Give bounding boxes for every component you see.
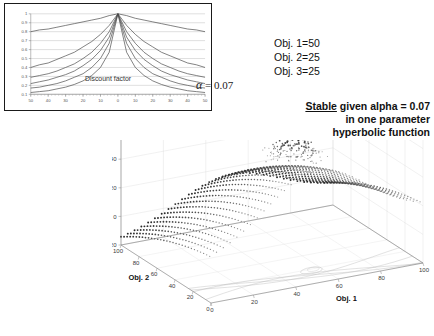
svg-text:40: 40 [185, 98, 190, 103]
objective-weights-block: Obj. 1=50 Obj. 2=25 Obj. 3=25 [274, 36, 320, 78]
svg-text:80: 80 [133, 260, 140, 266]
svg-text:10: 10 [133, 98, 138, 103]
utility-surface-3d-svg: 020406080100100806040200806040200-20 Obj… [112, 140, 434, 336]
svg-text:100: 100 [113, 248, 124, 254]
stable-annotation-line3: hyperbolic function [244, 126, 430, 139]
svg-text:10: 10 [98, 98, 103, 103]
stable-annotation-line2: in one parameter [244, 113, 430, 126]
svg-text:0.7: 0.7 [22, 38, 28, 43]
svg-text:60: 60 [151, 271, 158, 277]
slide-canvas: 0.10.20.30.40.50.60.70.80.91 50403020100… [0, 0, 434, 336]
stable-annotation-line1: Stable given alpha = 0.07 [244, 100, 430, 113]
svg-text:40: 40 [112, 156, 117, 162]
svg-text:20: 20 [150, 98, 155, 103]
surface-plot-walls [121, 140, 423, 263]
surface-plot-floor-grid [121, 205, 423, 303]
alpha-equation: = 0.07 [205, 79, 233, 91]
svg-text:0.2: 0.2 [22, 83, 28, 88]
svg-text:50: 50 [28, 98, 33, 103]
svg-text:0.5: 0.5 [22, 56, 28, 61]
svg-text:100: 100 [419, 267, 430, 273]
alpha-symbol: α [196, 78, 202, 92]
svg-text:0: 0 [210, 307, 214, 313]
svg-text:0: 0 [113, 214, 117, 220]
axis-title-obj1: Obj. 1 [336, 294, 357, 303]
svg-text:80: 80 [378, 275, 385, 281]
alpha-annotation: α = 0.07 [196, 78, 233, 93]
svg-text:40: 40 [46, 98, 51, 103]
svg-text:1: 1 [25, 11, 28, 16]
equilibrium-cone-points [262, 140, 328, 168]
chart-caption: Discount factor [85, 75, 132, 82]
svg-text:20: 20 [187, 294, 194, 300]
svg-text:20: 20 [251, 299, 258, 305]
svg-text:30: 30 [63, 98, 68, 103]
surface-plot-points [120, 165, 421, 257]
svg-text:20: 20 [112, 185, 117, 191]
svg-text:40: 40 [293, 291, 300, 297]
svg-text:0.8: 0.8 [22, 29, 28, 34]
svg-text:40: 40 [169, 283, 176, 289]
svg-text:20: 20 [81, 98, 86, 103]
chart-y-axis: 0.10.20.30.40.50.60.70.80.91 [22, 11, 31, 96]
svg-text:0.3: 0.3 [22, 74, 28, 79]
svg-text:60: 60 [336, 283, 343, 289]
svg-text:0.9: 0.9 [22, 20, 28, 25]
svg-text:0.1: 0.1 [22, 92, 28, 97]
svg-text:30: 30 [168, 98, 173, 103]
svg-text:0: 0 [117, 98, 120, 103]
svg-text:50: 50 [203, 98, 208, 103]
discount-factor-chart-svg: 0.10.20.30.40.50.60.70.80.91 50403020100… [5, 4, 211, 110]
objective-weight-line: Obj. 1=50 [274, 36, 320, 50]
utility-surface-3d-plot: 020406080100100806040200806040200-20 Obj… [112, 140, 434, 336]
axis-title-obj2: Obj. 2 [128, 273, 149, 282]
chart-x-axis: 504030201001020304050 [28, 94, 208, 103]
svg-text:-20: -20 [112, 242, 117, 248]
stable-annotation: Stable given alpha = 0.07 in one paramet… [244, 100, 430, 139]
objective-weight-line: Obj. 3=25 [274, 64, 320, 78]
stable-keyword: Stable [305, 100, 337, 112]
svg-text:0.4: 0.4 [22, 65, 28, 70]
objective-weight-line: Obj. 2=25 [274, 50, 320, 64]
chart-gridlines [31, 14, 205, 94]
stable-line1-rest: given alpha = 0.07 [337, 100, 430, 112]
svg-text:0.6: 0.6 [22, 47, 28, 52]
discount-factor-chart: 0.10.20.30.40.50.60.70.80.91 50403020100… [4, 3, 212, 111]
